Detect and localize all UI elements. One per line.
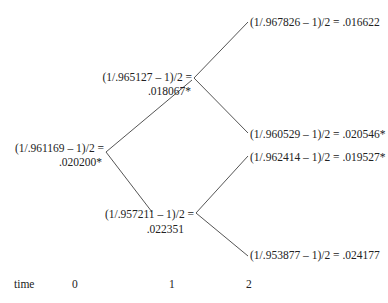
edge-up-down [194,78,248,133]
edge-root-down [106,152,152,212]
edge-down-up [196,156,248,213]
leaf-uu: (1/.967826 – 1)/2 = .016622 [250,15,380,29]
time-tick-2: 2 [246,277,252,291]
edge-up-up [194,22,248,78]
leaf-ud: (1/.960529 – 1)/2 = .020546* [250,127,386,141]
root-formula: (1/.961169 – 1)/2 = [0,141,104,155]
time-tick-0: 0 [72,277,78,291]
time-label: time [14,277,34,291]
leaf-du: (1/.962414 – 1)/2 = .019527* [250,150,386,164]
root-value: .020200* [0,155,102,169]
time-tick-1: 1 [169,277,175,291]
up-node-formula: (1/.965127 – 1)/2 = [90,70,192,84]
down-node-value: .022351 [90,222,184,236]
up-node-value: .018067* [90,84,191,98]
leaf-dd: (1/.953877 – 1)/2 = .024177 [250,248,380,262]
edge-down-down [196,213,248,256]
down-node-formula: (1/.957211 – 1)/2 = [90,207,194,221]
